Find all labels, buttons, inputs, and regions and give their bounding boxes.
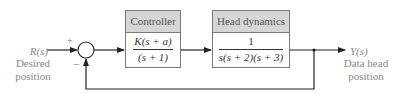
controller-transfer-function: K(s + a) (s + 1) (126, 34, 180, 64)
fraction-bar (133, 49, 173, 50)
input-desc-line1: Desired (13, 57, 53, 69)
head-dynamics-title: Head dynamics (213, 11, 289, 33)
input-signal-label: R(s) (18, 45, 48, 57)
summing-junction-icon (78, 42, 94, 58)
block-diagram: + − R(s) Desired position Controller K(s… (0, 0, 400, 94)
controller-numerator: K(s + a) (126, 34, 180, 48)
output-signal-label: Y(s) (350, 45, 380, 57)
controller-block: Controller K(s + a) (s + 1) (125, 10, 181, 68)
controller-denominator: (s + 1) (126, 51, 180, 64)
plus-sign: + (67, 35, 73, 47)
input-desc-line2: position (13, 70, 53, 82)
head-dynamics-denominator: s(s + 2)(s + 3) (213, 51, 289, 64)
fraction-bar (219, 49, 283, 50)
minus-sign: − (73, 58, 79, 70)
head-dynamics-block: Head dynamics 1 s(s + 2)(s + 3) (212, 10, 290, 68)
head-dynamics-numerator: 1 (213, 34, 289, 48)
output-desc-line2: position (338, 70, 394, 82)
output-desc-line1: Data head (338, 57, 394, 69)
head-dynamics-transfer-function: 1 s(s + 2)(s + 3) (213, 34, 289, 64)
controller-title: Controller (126, 11, 180, 33)
